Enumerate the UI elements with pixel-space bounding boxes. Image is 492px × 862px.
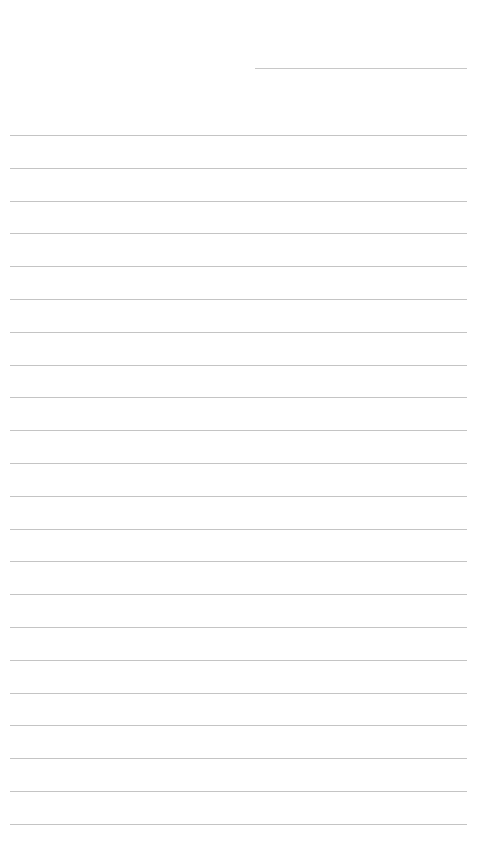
ruled-line [10,660,467,661]
ruled-line [10,463,467,464]
ruled-line [10,693,467,694]
ruled-line [10,725,467,726]
ruled-line [10,529,467,530]
ruled-line [10,430,467,431]
ruled-line [10,561,467,562]
ruled-line [10,791,467,792]
ruled-line [10,758,467,759]
header-date-line [255,68,467,69]
ruled-line [10,168,467,169]
ruled-line [10,266,467,267]
ruled-line [10,627,467,628]
ruled-line [10,397,467,398]
ruled-line [10,233,467,234]
ruled-line [10,594,467,595]
ruled-line [10,824,467,825]
lined-paper-page [0,0,492,862]
ruled-line [10,332,467,333]
ruled-line [10,299,467,300]
ruled-line [10,365,467,366]
ruled-line [10,496,467,497]
ruled-line [10,201,467,202]
ruled-line [10,135,467,136]
